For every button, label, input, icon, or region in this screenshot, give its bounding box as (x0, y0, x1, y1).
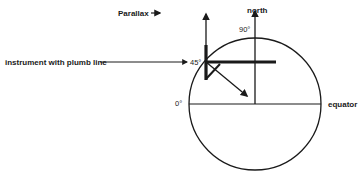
instrument-label: instrument with plumb line (5, 58, 107, 67)
parallax-label: Parallax (118, 9, 149, 18)
degree-90-label: 90° (239, 25, 250, 34)
latitude-parallax-diagram: Parallax north 90° 45° 0° equator instru… (0, 0, 362, 180)
equator-label: equator (328, 100, 357, 109)
plumb-line-arrow (206, 62, 247, 96)
degree-0-label: 0° (175, 99, 182, 108)
north-label: north (247, 6, 268, 15)
degree-45-label: 45° (190, 58, 201, 67)
